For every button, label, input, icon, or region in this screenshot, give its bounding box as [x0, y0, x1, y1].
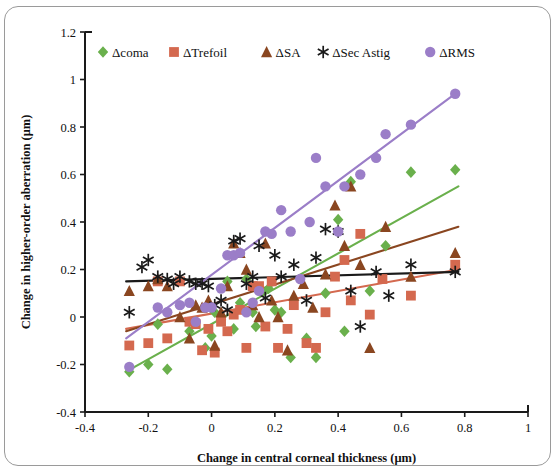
- point-ΔRMS: [216, 283, 226, 293]
- point-ΔSA: [364, 342, 375, 353]
- point-ΔTrefoil: [302, 338, 312, 348]
- point-ΔTrefoil: [365, 310, 375, 320]
- point-ΔRMS: [333, 226, 343, 236]
- y-tick-label: 0.4: [60, 216, 76, 230]
- point-ΔTrefoil: [289, 300, 299, 310]
- legend-label-ΔRMS: ΔRMS: [439, 45, 475, 60]
- x-tick-label: 0.6: [394, 421, 410, 435]
- point-ΔSA: [450, 247, 461, 258]
- point-ΔSA: [380, 221, 391, 232]
- y-tick-label: 0.2: [60, 263, 76, 277]
- x-tick-label: 0.2: [267, 421, 283, 435]
- point-ΔTrefoil: [283, 324, 293, 334]
- point-ΔSec Astig: [320, 223, 331, 235]
- point-ΔTrefoil: [124, 341, 134, 351]
- point-ΔSec Astig: [383, 289, 394, 301]
- y-tick-label: -0.2: [56, 358, 76, 372]
- y-tick-label: 0.8: [60, 121, 76, 135]
- point-ΔTrefoil: [340, 255, 350, 265]
- point-ΔTrefoil: [273, 343, 283, 353]
- point-ΔRMS: [285, 226, 295, 236]
- legend-label-Δcoma: Δcoma: [112, 45, 149, 60]
- point-ΔSA: [355, 259, 366, 270]
- point-ΔSec Astig: [269, 249, 280, 261]
- y-axis-title: Change in higher-order aberration (μm): [19, 115, 33, 330]
- x-tick-label: 0.8: [457, 421, 473, 435]
- point-ΔRMS: [276, 205, 286, 215]
- point-ΔSA: [329, 199, 340, 210]
- x-tick-label: 0.4: [330, 421, 346, 435]
- point-Δcoma: [251, 321, 261, 333]
- point-ΔRMS: [320, 181, 330, 191]
- x-axis-title: Change in central corneal thickness (μm): [197, 451, 416, 465]
- y-tick-label: 1.2: [60, 26, 76, 40]
- point-ΔRMS: [184, 298, 194, 308]
- point-ΔTrefoil: [406, 291, 416, 301]
- point-ΔSA: [282, 344, 293, 355]
- point-ΔRMS: [406, 119, 416, 129]
- point-Δcoma: [450, 164, 460, 176]
- point-ΔTrefoil: [260, 322, 270, 332]
- point-Δcoma: [311, 352, 321, 364]
- data-points: [124, 89, 461, 378]
- point-Δcoma: [320, 287, 330, 299]
- legend-marker-Δcoma: [98, 46, 108, 58]
- point-ΔSA: [124, 285, 135, 296]
- point-ΔTrefoil: [321, 307, 331, 317]
- point-ΔSec Astig: [143, 254, 154, 266]
- point-ΔSec Astig: [355, 320, 366, 332]
- point-ΔSec Astig: [288, 259, 299, 271]
- point-ΔTrefoil: [267, 276, 277, 286]
- legend-marker-ΔRMS: [425, 47, 435, 57]
- point-ΔSec Astig: [137, 261, 148, 273]
- legend-label-ΔSA: ΔSA: [276, 45, 302, 60]
- point-ΔTrefoil: [204, 324, 214, 334]
- point-ΔRMS: [206, 302, 216, 312]
- point-ΔTrefoil: [330, 272, 340, 282]
- x-tick-label: 1: [525, 421, 531, 435]
- point-ΔRMS: [355, 169, 365, 179]
- point-ΔSA: [307, 302, 318, 313]
- point-ΔRMS: [450, 89, 460, 99]
- chart-legend: ΔcomaΔTrefoilΔSAΔSec AstigΔRMS: [98, 45, 475, 60]
- point-Δcoma: [339, 325, 349, 337]
- point-ΔTrefoil: [216, 317, 226, 327]
- legend-marker-ΔSA: [261, 46, 272, 57]
- point-ΔRMS: [304, 217, 314, 227]
- point-ΔTrefoil: [355, 229, 365, 239]
- point-ΔTrefoil: [378, 274, 388, 284]
- point-ΔRMS: [371, 153, 381, 163]
- point-ΔSec Astig: [124, 306, 135, 318]
- legend-label-ΔSec Astig: ΔSec Astig: [332, 45, 390, 60]
- point-ΔSec Astig: [406, 259, 417, 271]
- point-ΔSA: [288, 290, 299, 301]
- legend-marker-ΔTrefoil: [169, 47, 179, 57]
- point-ΔRMS: [153, 302, 163, 312]
- y-tick-label: 0.6: [60, 168, 76, 182]
- point-ΔSA: [241, 264, 252, 275]
- point-ΔTrefoil: [311, 343, 321, 353]
- point-ΔRMS: [241, 307, 251, 317]
- point-Δcoma: [333, 214, 343, 226]
- point-Δcoma: [406, 166, 416, 178]
- point-ΔTrefoil: [143, 338, 153, 348]
- point-ΔRMS: [295, 274, 305, 284]
- point-ΔSec Astig: [311, 251, 322, 263]
- x-tick-label: 0: [208, 421, 214, 435]
- point-ΔTrefoil: [222, 326, 232, 336]
- point-ΔSA: [339, 240, 350, 251]
- scatter-chart: ΔcomaΔTrefoilΔSAΔSec AstigΔRMS -0.4-0.20…: [0, 0, 555, 470]
- figure-container: ΔcomaΔTrefoilΔSAΔSec AstigΔRMS -0.4-0.20…: [0, 0, 555, 470]
- y-tick-label: -0.4: [56, 406, 77, 420]
- point-ΔTrefoil: [197, 345, 207, 355]
- point-ΔRMS: [235, 248, 245, 258]
- x-tick-label: -0.4: [75, 421, 96, 435]
- point-ΔRMS: [175, 300, 185, 310]
- point-ΔRMS: [380, 129, 390, 139]
- legend-label-ΔTrefoil: ΔTrefoil: [183, 45, 227, 60]
- point-ΔTrefoil: [241, 343, 251, 353]
- point-ΔRMS: [191, 317, 201, 327]
- point-ΔRMS: [248, 298, 258, 308]
- point-ΔRMS: [254, 286, 264, 296]
- y-tick-label: 0: [70, 311, 76, 325]
